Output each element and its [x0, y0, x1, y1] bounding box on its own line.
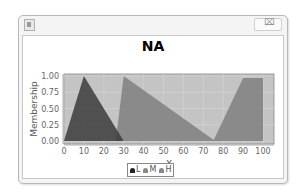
java-app-icon — [24, 19, 35, 31]
x-tick-label: 100 — [255, 147, 270, 156]
legend-item-h: H — [159, 164, 171, 176]
x-tick-label: 0 — [61, 147, 66, 156]
legend-item-l: L — [130, 164, 140, 176]
x-axis-ticks: 0102030405060708090100 — [61, 147, 270, 156]
x-tick-label: 50 — [158, 147, 168, 156]
close-icon: ⌧ — [264, 17, 274, 27]
y-tick-label: 0.00 — [41, 137, 59, 146]
chart-window: ⌧ NA 0.000.250.500.751.00 01020304050607… — [18, 15, 288, 184]
y-tick-label: 0.25 — [41, 121, 59, 130]
legend-label-l: L — [136, 164, 140, 176]
y-tick-label: 0.50 — [41, 105, 59, 114]
close-button[interactable]: ⌧ — [254, 18, 282, 31]
title-bar[interactable]: ⌧ — [19, 16, 287, 34]
legend-item-m: M — [143, 164, 156, 176]
chart-panel: NA 0.000.250.500.751.00 0102030405060708… — [22, 35, 284, 179]
legend-label-m: M — [149, 164, 156, 176]
y-tick-label: 0.75 — [41, 88, 59, 97]
legend-swatch-h — [159, 168, 164, 173]
legend-swatch-m — [143, 168, 148, 173]
y-axis-label: Membership — [29, 81, 39, 137]
x-tick-label: 80 — [218, 147, 228, 156]
x-tick-label: 70 — [198, 147, 208, 156]
x-tick-label: 90 — [238, 147, 248, 156]
y-axis-ticks: 0.000.250.500.751.00 — [41, 72, 59, 146]
legend-swatch-l — [130, 168, 135, 173]
x-tick-label: 10 — [79, 147, 89, 156]
plot-svg: 0.000.250.500.751.00 0102030405060708090… — [23, 36, 283, 178]
x-tick-label: 60 — [178, 147, 188, 156]
legend-label-h: H — [165, 164, 171, 176]
x-tick-label: 30 — [119, 147, 129, 156]
chart-legend: L M H — [127, 163, 174, 177]
y-tick-label: 1.00 — [41, 72, 59, 81]
x-tick-label: 20 — [99, 147, 109, 156]
x-tick-label: 40 — [139, 147, 149, 156]
